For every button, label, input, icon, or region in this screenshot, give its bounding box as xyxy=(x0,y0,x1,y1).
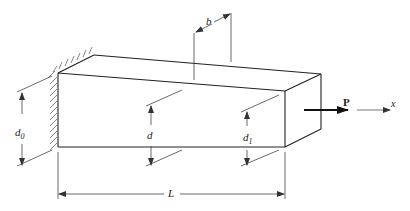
tapered-bar-diagram: b d0 d d1 L P x xyxy=(0,0,410,211)
label-L: L xyxy=(168,188,174,199)
dimension-b xyxy=(194,13,231,80)
fixed-support-hatch xyxy=(48,47,92,150)
label-d0-sub: 0 xyxy=(21,132,25,141)
dimension-d0 xyxy=(17,76,52,166)
label-b: b xyxy=(206,16,212,27)
label-x: x xyxy=(391,99,395,109)
dimension-d xyxy=(146,90,182,166)
bar-outline xyxy=(58,55,321,147)
label-d1: d1 xyxy=(243,132,253,146)
label-d1-sub: 1 xyxy=(249,137,253,146)
label-P: P xyxy=(343,97,350,108)
label-d: d xyxy=(147,130,153,141)
label-d0: d0 xyxy=(15,127,25,141)
